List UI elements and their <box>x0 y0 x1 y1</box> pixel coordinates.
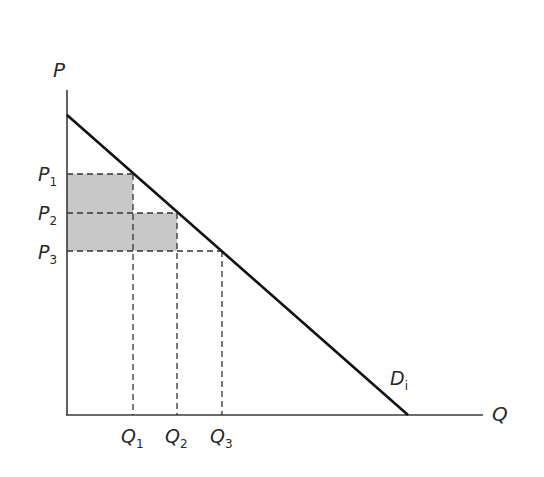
demand-diagram: P Q Di P1 P2 P3 Q1 Q2 Q3 <box>0 0 544 477</box>
shaded-area-lower <box>133 213 177 251</box>
diagram-canvas: P Q Di P1 P2 P3 Q1 Q2 Q3 <box>0 0 544 477</box>
x-axis-label: Q <box>492 402 508 426</box>
price-label-p1: P1 <box>38 163 57 189</box>
demand-curve-label: Di <box>390 367 408 393</box>
y-axis-label: P <box>53 58 66 82</box>
quantity-label-q1: Q1 <box>121 425 144 451</box>
price-label-p3: P3 <box>38 241 57 267</box>
quantity-label-q3: Q3 <box>210 425 233 451</box>
demand-curve <box>67 115 408 415</box>
price-label-p2: P2 <box>38 202 57 228</box>
quantity-label-q2: Q2 <box>165 425 188 451</box>
